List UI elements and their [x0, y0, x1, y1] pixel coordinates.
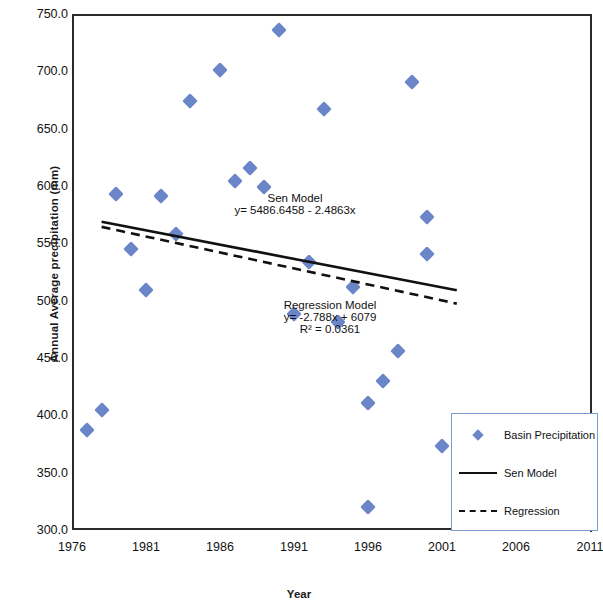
chart-legend: Basin Precipitation Sen Model Regression — [451, 413, 598, 531]
legend-label-regression: Regression — [504, 505, 560, 517]
sen-model-annotation-title: Sen Model — [234, 192, 355, 204]
regression-model-annotation: Regression Model y= -2.788x + 6079 R² = … — [284, 299, 377, 335]
y-axis-tick-label: 700.0 — [4, 64, 68, 78]
legend-item-sen-model: Sen Model — [452, 456, 599, 490]
y-axis-tick-label: 300.0 — [4, 523, 68, 537]
sen-model-annotation-equation: y= 5486.6458 - 2.4863x — [234, 204, 355, 216]
sen-model-annotation: Sen Model y= 5486.6458 - 2.4863x — [234, 192, 355, 216]
dashed-line-icon — [452, 510, 504, 512]
x-axis-title: Year — [0, 588, 598, 600]
y-axis-title: Annual Average precipitation (mm) — [48, 114, 60, 414]
x-axis-tick-label: 1981 — [132, 540, 160, 554]
legend-label-basin-precipitation: Basin Precipitation — [504, 429, 595, 441]
regression-model-annotation-r2: R² = 0.0361 — [284, 323, 377, 335]
regression-model-annotation-title: Regression Model — [284, 299, 377, 311]
legend-label-sen-model: Sen Model — [504, 467, 557, 479]
x-axis-tick-label: 2006 — [502, 540, 530, 554]
regression-model-annotation-equation: y= -2.788x + 6079 — [284, 311, 377, 323]
x-axis-tick-label: 1986 — [206, 540, 234, 554]
legend-item-basin-precipitation: Basin Precipitation — [452, 418, 599, 452]
x-axis-tick-label: 1996 — [354, 540, 382, 554]
x-axis-tick-label: 2001 — [428, 540, 456, 554]
legend-item-regression: Regression — [452, 494, 599, 528]
x-axis-tick-label: 2011 — [577, 540, 603, 554]
y-axis-tick-label: 750.0 — [4, 7, 68, 21]
solid-line-icon — [452, 472, 504, 475]
x-axis-tick-label: 1991 — [280, 540, 308, 554]
y-axis-tick-label: 350.0 — [4, 466, 68, 480]
diamond-marker-icon — [452, 431, 504, 439]
x-axis-tick-label: 1976 — [58, 540, 86, 554]
